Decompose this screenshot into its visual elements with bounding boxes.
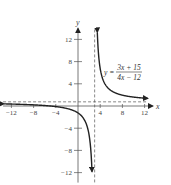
- x-tick-label: 12: [141, 109, 149, 117]
- y-tick-label: 8: [69, 58, 73, 66]
- axes: [3, 28, 153, 182]
- equation-numerator: 3x + 15: [116, 63, 141, 72]
- x-tick-label: −8: [30, 109, 38, 117]
- tick-labels: −12−8−44812−12−8−44812: [6, 36, 149, 177]
- x-axis-label: x: [155, 102, 160, 111]
- y-tick-label: −4: [65, 125, 73, 133]
- x-tick-label: −12: [6, 109, 17, 117]
- x-tick-label: 8: [121, 109, 125, 117]
- y-tick-label: 12: [65, 36, 73, 44]
- y-tick-label: −8: [65, 147, 73, 155]
- x-tick-label: 4: [98, 109, 102, 117]
- y-tick-label: 4: [69, 80, 73, 88]
- y-tick-label: −12: [61, 169, 72, 177]
- equation-label: y = 3x + 15 4x − 12: [103, 63, 142, 82]
- equation-denominator: 4x − 12: [117, 73, 141, 82]
- rational-function-graph: −12−8−44812−12−8−44812 x y y = 3x + 15 4…: [0, 0, 171, 185]
- y-axis-label: y: [75, 18, 80, 27]
- x-tick-label: −4: [52, 109, 60, 117]
- left-branch-curve: [4, 104, 92, 172]
- equation-lhs: y =: [103, 68, 114, 77]
